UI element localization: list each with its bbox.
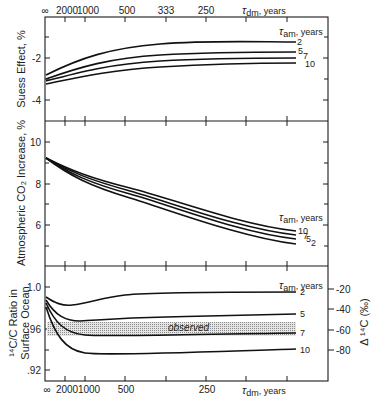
observed-label: observed <box>168 322 210 333</box>
p3-legend-7: 7 <box>300 328 305 338</box>
xtick-inf: ∞ <box>41 5 48 16</box>
p2-ylabel: Atmospheric CO₂ Increase, % <box>15 120 27 266</box>
p3-ylabel-line2: Surface Ocean <box>19 286 31 359</box>
p2-ytick: 8 <box>35 179 41 190</box>
panel-suess-effect: Suess Effect, % -2 -4 τam, years 2 5 7 1… <box>15 25 323 108</box>
xtick-250: 250 <box>198 5 215 16</box>
p3-curve-2 <box>46 292 296 305</box>
p1-curve-7 <box>46 58 296 81</box>
p3-legend-10: 10 <box>300 345 310 355</box>
xb-1000: 1000 <box>78 384 101 395</box>
xb-250: 250 <box>199 384 216 395</box>
panel-14c-ratio: ¹⁴C/C Ratio in Surface Ocean 1.0 .96 .92… <box>7 279 370 376</box>
p1-ylabel: Suess Effect, % <box>15 30 27 108</box>
p3-ytick: .92 <box>27 365 41 376</box>
bottom-x-axis: ∞ 2000 1000 500 250 τdm, years <box>43 384 286 398</box>
p3-ylabel-line1: ¹⁴C/C Ratio in <box>7 289 19 357</box>
top-x-axis: ∞ 2000 1000 500 333 250 τdm, years <box>41 4 286 18</box>
xb-inf: ∞ <box>43 384 50 395</box>
p1-ytick: -2 <box>32 53 41 64</box>
panel-co2-increase: Atmospheric CO₂ Increase, % 10 8 6 τam, … <box>15 120 323 266</box>
xtick-2000: 2000 <box>56 5 79 16</box>
p2-curve-7 <box>46 158 296 235</box>
p3-y2tick: -40 <box>336 304 351 315</box>
xtick-500: 500 <box>119 5 136 16</box>
p3-y2tick: -20 <box>336 284 351 295</box>
top-xlabel: τdm, years <box>242 4 286 18</box>
p2-legend-2: 2 <box>311 238 316 248</box>
bottom-xlabel: τdm, years <box>242 384 286 398</box>
p1-curve-10 <box>46 63 296 84</box>
xb-2000: 2000 <box>56 384 79 395</box>
p3-legend-5: 5 <box>300 309 305 319</box>
p3-ytick: 1.0 <box>27 282 41 293</box>
xtick-333: 333 <box>158 5 175 16</box>
p1-legend-10: 10 <box>305 59 315 69</box>
xtick-1000: 1000 <box>77 5 100 16</box>
p3-y2label: Δ ¹⁴C (‰) <box>358 298 370 346</box>
p1-ytick: -4 <box>32 95 41 106</box>
p3-legend-2: 2 <box>300 287 305 297</box>
p3-y2tick: -80 <box>336 345 351 356</box>
p3-y2tick: -60 <box>336 325 351 336</box>
p2-curve-2 <box>46 158 296 244</box>
p3-ytick: .96 <box>27 324 41 335</box>
p2-ytick: 10 <box>30 137 42 148</box>
figure: ∞ 2000 1000 500 333 250 τdm, years <box>0 0 376 401</box>
p2-legend-title: τam, years <box>279 211 323 225</box>
xb-500: 500 <box>118 384 135 395</box>
p2-curve-5 <box>46 158 296 239</box>
p2-ytick: 6 <box>35 220 41 231</box>
p1-curve-5 <box>46 52 296 79</box>
p2-curve-10 <box>46 158 296 231</box>
